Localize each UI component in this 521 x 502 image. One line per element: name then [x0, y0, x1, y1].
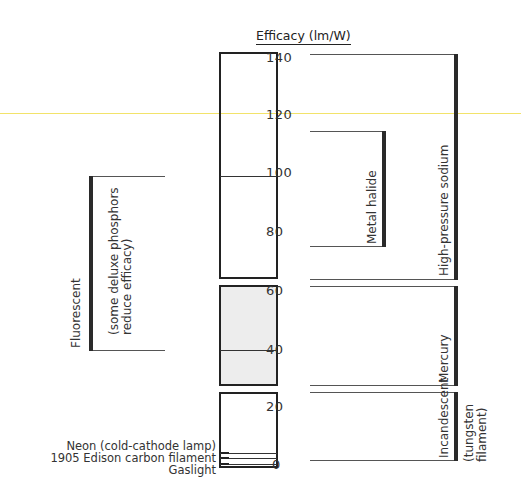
tick-40: 40: [266, 342, 284, 357]
marker-neon: [221, 452, 229, 454]
mercury-min-line: [310, 385, 456, 386]
fluorescent-range-bar: [89, 176, 93, 351]
tick-60: 60: [266, 283, 284, 298]
mercury-range-bar: [454, 286, 458, 386]
axis-title: Efficacy (lm/W): [256, 28, 351, 45]
metal-halide-range-bar: [382, 131, 386, 247]
incandescent-note-2: filament): [476, 408, 489, 462]
fluorescent-note-2: reduce efficacy): [121, 239, 134, 335]
hps-min-line: [310, 279, 456, 280]
hps-max-line: [310, 54, 456, 55]
metal-halide-max-line: [310, 131, 384, 132]
marker-edison: [221, 457, 229, 459]
tick-80: 80: [266, 224, 284, 239]
fluorescent-min-line: [90, 350, 165, 351]
metal-halide-label: Metal halide: [366, 170, 379, 244]
tick-100: 100: [266, 165, 292, 180]
mercury-max-line: [310, 286, 456, 287]
tick-0: 0: [272, 457, 281, 472]
tick-140: 140: [266, 50, 292, 65]
hps-range-bar: [454, 54, 458, 280]
metal-halide-min-line: [310, 246, 384, 247]
incandescent-max-line: [310, 392, 456, 393]
fluorescent-max-line: [90, 176, 165, 177]
efficacy-column-middle: [219, 285, 278, 386]
hps-label: High-pressure sodium: [438, 145, 451, 276]
incandescent-min-line: [310, 460, 456, 461]
label-gaslight: Gaslight: [169, 463, 216, 477]
marker-gaslight: [221, 463, 229, 465]
tick-20: 20: [266, 399, 284, 414]
mercury-label: Mercury: [438, 334, 451, 383]
tick-120: 120: [266, 107, 292, 122]
incandescent-label: Incandescent: [438, 378, 451, 458]
fluorescent-label: Fluorescent: [70, 278, 83, 348]
incandescent-range-bar: [454, 392, 458, 461]
